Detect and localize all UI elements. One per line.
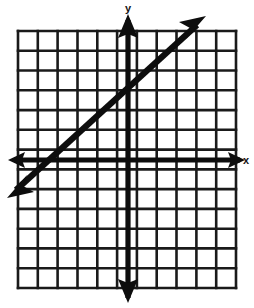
graph-screenshot: x y [0, 0, 254, 308]
y-axis-label: y [125, 2, 132, 14]
coordinate-plane-graph: x y [0, 0, 254, 308]
x-axis-label: x [243, 154, 250, 166]
